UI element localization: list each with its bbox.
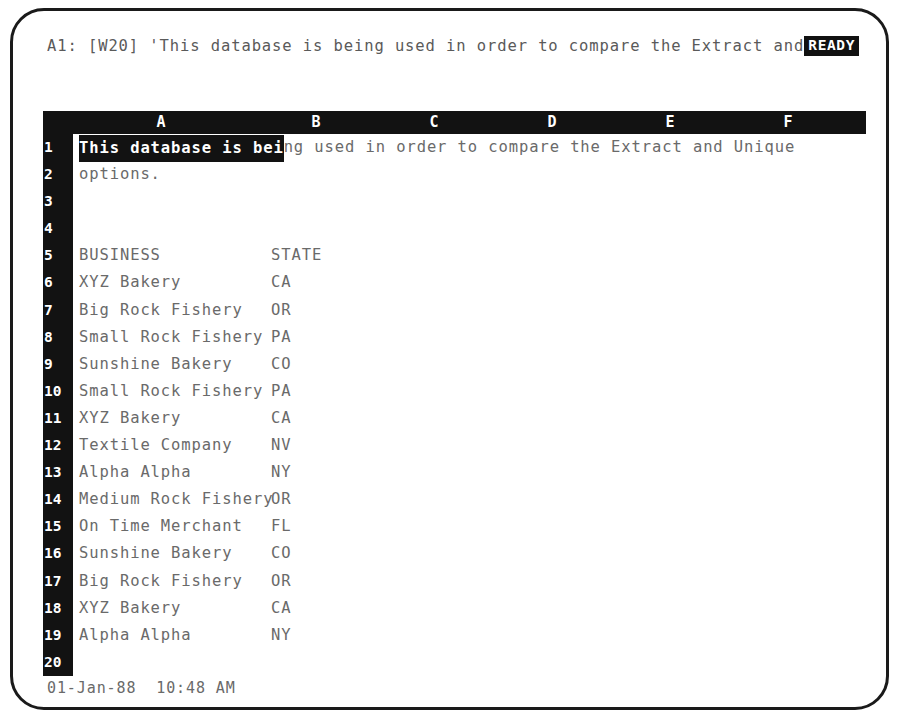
cell-a13[interactable]: Alpha Alpha [79,459,192,486]
cell-a15[interactable]: On Time Merchant [79,513,243,540]
date-time-status: 01-Jan-88 10:48 AM [47,679,236,697]
cell-b15[interactable]: FL [271,513,291,540]
cell-a10[interactable]: Small Rock Fishery [79,378,263,405]
row-number[interactable]: 17 [43,568,73,595]
column-header-c[interactable]: C [375,111,493,134]
table-row: Textile Company NV [73,432,866,459]
row-number[interactable]: 20 [43,649,73,676]
worksheet-grid: 1 2 3 4 5 6 7 8 9 10 11 12 13 14 15 16 1… [43,134,866,676]
table-row: BUSINESS STATE [73,242,866,269]
cell-b6[interactable]: CA [271,269,291,296]
row-number[interactable]: 1 [43,134,73,161]
row-number[interactable]: 6 [43,269,73,296]
cell-b10[interactable]: PA [271,378,291,405]
cell-a9[interactable]: Sunshine Bakery [79,351,232,378]
row-number[interactable]: 19 [43,622,73,649]
column-header-e[interactable]: E [611,111,729,134]
table-row: Alpha Alpha NY [73,622,866,649]
column-header-a[interactable]: A [65,111,257,134]
table-row [73,649,866,676]
row-number[interactable]: 7 [43,297,73,324]
table-row: Sunshine Bakery CO [73,351,866,378]
cell-a8[interactable]: Small Rock Fishery [79,324,263,351]
cell-b18[interactable]: CA [271,595,291,622]
table-row: Sunshine Bakery CO [73,540,866,567]
cell-b17[interactable]: OR [271,568,291,595]
cell-area: This database is being used in order to … [73,134,866,676]
table-row: Small Rock Fishery PA [73,378,866,405]
table-row: XYZ Bakery CA [73,595,866,622]
table-row: XYZ Bakery CA [73,269,866,296]
row-number[interactable]: 11 [43,405,73,432]
cell-a12[interactable]: Textile Company [79,432,232,459]
cell-a16[interactable]: Sunshine Bakery [79,540,232,567]
column-header-b[interactable]: B [257,111,375,134]
row-number[interactable]: 12 [43,432,73,459]
cell-b12[interactable]: NV [271,432,291,459]
cell-a5[interactable]: BUSINESS [79,242,161,269]
cell-b5[interactable]: STATE [271,242,322,269]
table-row: options. [73,161,866,188]
cell-a2[interactable]: options. [79,161,161,188]
cell-b7[interactable]: OR [271,297,291,324]
row-number[interactable]: 14 [43,486,73,513]
row-number[interactable]: 5 [43,242,73,269]
column-header-f[interactable]: F [729,111,847,134]
table-row: On Time Merchant FL [73,513,866,540]
row-number[interactable]: 16 [43,540,73,567]
column-header-d[interactable]: D [493,111,611,134]
worksheet[interactable]: A B C D E F 1 2 3 4 5 6 7 8 9 10 11 12 1… [43,111,866,676]
cell-a17[interactable]: Big Rock Fishery [79,568,243,595]
row-number[interactable]: 8 [43,324,73,351]
table-row: Small Rock Fishery PA [73,324,866,351]
cell-b16[interactable]: CO [271,540,291,567]
cell-cursor-highlight[interactable]: This database is bei [79,135,284,162]
row-number[interactable]: 2 [43,161,73,188]
row-number[interactable]: 9 [43,351,73,378]
crt-screen-bezel: A1: [W20] 'This database is being used i… [10,8,889,710]
worksheet-corner [43,111,65,134]
cell-b9[interactable]: CO [271,351,291,378]
cell-a18[interactable]: XYZ Bakery [79,595,181,622]
table-row: Alpha Alpha NY [73,459,866,486]
row-number[interactable]: 18 [43,595,73,622]
table-row [73,188,866,215]
control-line: A1: [W20] 'This database is being used i… [47,33,859,59]
table-row [73,215,866,242]
cell-b8[interactable]: PA [271,324,291,351]
cell-a6[interactable]: XYZ Bakery [79,269,181,296]
cell-a14[interactable]: Medium Rock Fishery [79,486,273,513]
cell-b14[interactable]: OR [271,486,291,513]
row-number-column: 1 2 3 4 5 6 7 8 9 10 11 12 13 14 15 16 1… [43,134,73,676]
column-header-bar: A B C D E F [43,111,866,134]
row-number[interactable]: 10 [43,378,73,405]
cell-b19[interactable]: NY [271,622,291,649]
cell-reference-and-contents: A1: [W20] 'This database is being used i… [47,37,804,55]
cell-a19[interactable]: Alpha Alpha [79,622,192,649]
table-row: Big Rock Fishery OR [73,297,866,324]
cell-b11[interactable]: CA [271,405,291,432]
row-number[interactable]: 13 [43,459,73,486]
cell-b13[interactable]: NY [271,459,291,486]
row-number[interactable]: 4 [43,215,73,242]
table-row: Medium Rock Fishery OR [73,486,866,513]
table-row: This database is being used in order to … [73,134,866,161]
row-number[interactable]: 15 [43,513,73,540]
row-number[interactable]: 3 [43,188,73,215]
cell-a7[interactable]: Big Rock Fishery [79,297,243,324]
table-row: Big Rock Fishery OR [73,568,866,595]
mode-indicator-badge: READY [804,36,859,56]
cell-a11[interactable]: XYZ Bakery [79,405,181,432]
table-row: XYZ Bakery CA [73,405,866,432]
